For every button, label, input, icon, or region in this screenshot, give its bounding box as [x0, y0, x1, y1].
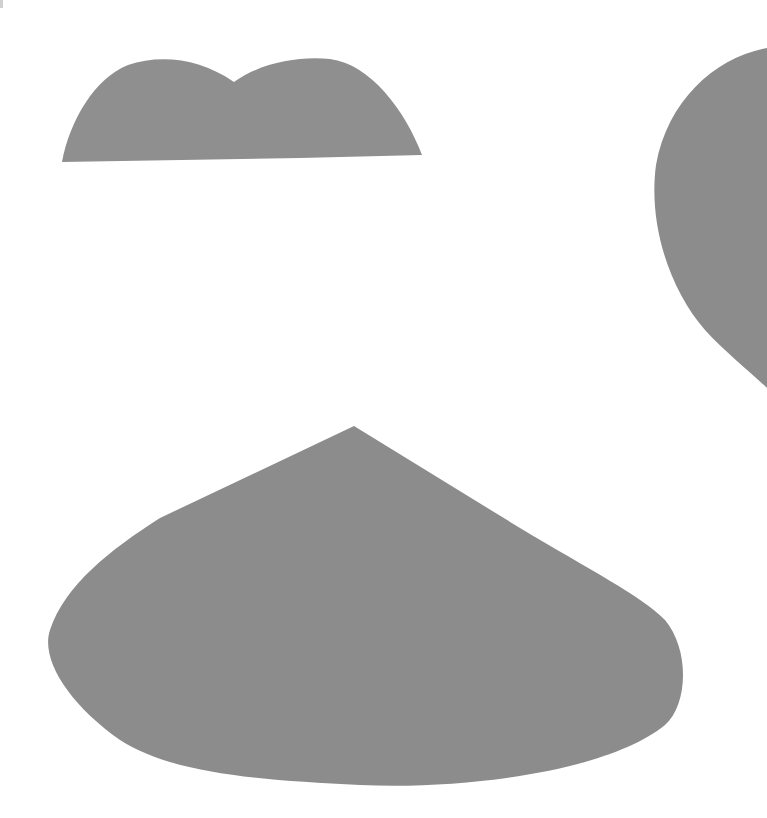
- rounded-cone-shape: [48, 426, 683, 786]
- half-heart-shape: [654, 48, 767, 388]
- shapes-canvas: [0, 0, 767, 818]
- double-hump-shape: [62, 58, 422, 162]
